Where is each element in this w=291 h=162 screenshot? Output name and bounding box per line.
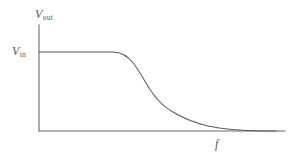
vin-level-label: Vin [12,45,26,57]
x-axis-label: f [215,138,219,150]
vin-subscript: in [20,50,26,59]
y-axis-symbol: V [35,7,43,21]
y-axis-subscript: out [43,13,53,22]
response-curve [39,52,276,131]
y-axis-label: Vout [35,8,53,20]
plot-area [0,0,291,162]
figure-low-pass-response: Vout Vin f [0,0,291,162]
vin-symbol: V [12,44,20,58]
